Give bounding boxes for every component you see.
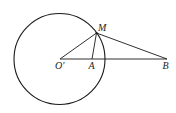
label-a: A	[88, 60, 96, 71]
geometry-diagram: M O' A B	[0, 0, 176, 113]
label-b: B	[163, 60, 169, 71]
segment-o-m	[60, 33, 97, 59]
label-o-prime: O'	[55, 60, 65, 71]
label-m: M	[97, 22, 107, 33]
segment-m-a	[92, 33, 97, 59]
segment-m-b	[97, 33, 168, 59]
